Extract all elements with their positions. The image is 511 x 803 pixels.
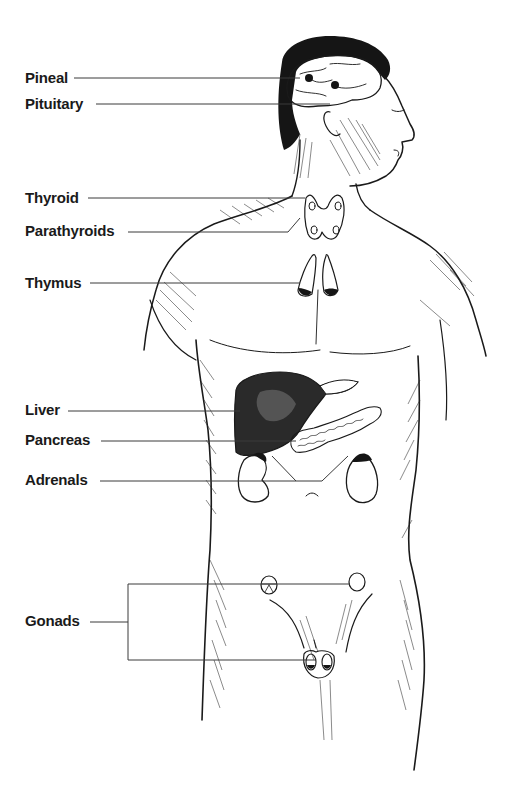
thyroid-gland	[305, 195, 344, 239]
label-pineal: Pineal	[25, 70, 68, 86]
parathyroid-upper-right	[335, 202, 341, 210]
endocrine-body-illustration	[0, 0, 511, 803]
leader-parathyroids	[128, 218, 300, 232]
pituitary-gland	[331, 81, 339, 89]
label-pancreas: Pancreas	[25, 432, 90, 448]
liver-organ	[235, 372, 359, 455]
gonads-organ	[261, 573, 365, 678]
torso-drawing	[144, 196, 486, 770]
label-adrenals: Adrenals	[25, 472, 88, 488]
parathyroid-lower-left	[311, 226, 317, 234]
label-pituitary: Pituitary	[25, 96, 83, 112]
label-thymus: Thymus	[25, 275, 81, 291]
kidneys-adrenals	[238, 453, 377, 503]
label-gonads: Gonads	[25, 613, 80, 629]
ovary-right	[349, 573, 365, 591]
head-drawing	[278, 36, 414, 210]
parathyroid-lower-right	[333, 226, 339, 234]
label-liver: Liver	[25, 402, 60, 418]
leader-adrenals-right	[296, 456, 348, 481]
pineal-gland	[305, 74, 313, 82]
label-thyroid: Thyroid	[25, 190, 79, 206]
label-parathyroids: Parathyroids	[25, 223, 114, 239]
parathyroid-upper-left	[309, 202, 315, 210]
